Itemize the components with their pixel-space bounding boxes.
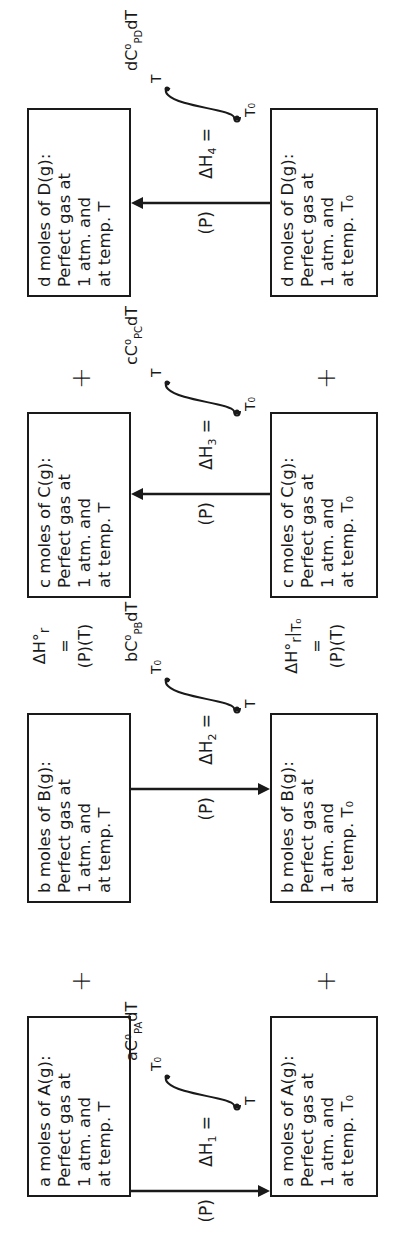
integral-icon: [160, 83, 240, 123]
path-label: (P): [196, 211, 216, 235]
integrand: dCoPDdT: [122, 10, 144, 71]
arrow-up-icon: [0, 0, 397, 1259]
delta-h-4: ΔH4 =: [196, 128, 219, 179]
thermo-cycle-diagram: a moles of A(g): Perfect gas at 1 atm. a…: [0, 0, 397, 1259]
